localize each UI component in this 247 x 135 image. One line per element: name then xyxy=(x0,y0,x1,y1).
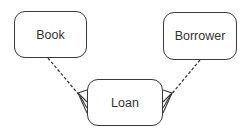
entity-book[interactable]: Book xyxy=(14,11,87,58)
entity-label: Borrower xyxy=(175,29,226,43)
er-diagram-canvas: Book Borrower Loan xyxy=(0,0,247,135)
entity-borrower[interactable]: Borrower xyxy=(163,12,237,60)
entity-loan[interactable]: Loan xyxy=(87,79,163,126)
crows-foot-icon xyxy=(78,90,87,113)
relationship-borrower-loan-line xyxy=(170,60,200,96)
crows-foot-icon xyxy=(163,90,172,113)
entity-label: Loan xyxy=(111,96,139,110)
entity-label: Book xyxy=(36,28,65,42)
relationship-book-loan-line xyxy=(48,58,80,96)
